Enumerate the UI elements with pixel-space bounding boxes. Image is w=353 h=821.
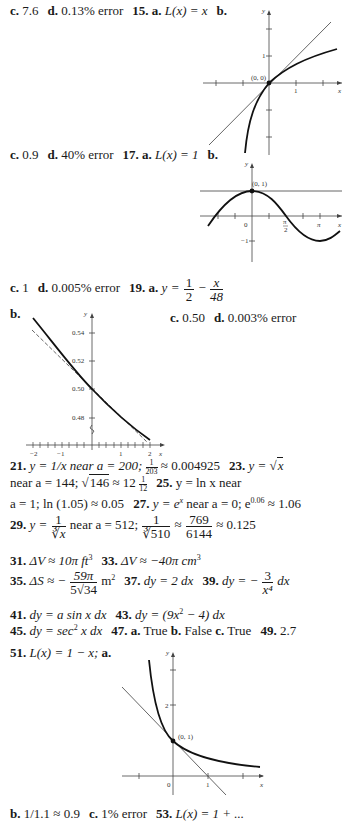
- label-a: a.: [152, 3, 162, 18]
- denominator: ∛510: [142, 527, 170, 540]
- denominator: x⁴: [262, 583, 273, 596]
- exponent: 3: [88, 553, 92, 562]
- answer-line-17: c. 0.9d. 40% error17. a. L(x) = 1b.: [10, 147, 218, 162]
- denominator: 5√34: [70, 583, 97, 596]
- answer-line-31-33: 31. ΔV ≈ 10π ft333. ΔV ≈ −40π cm3: [10, 550, 201, 568]
- answer-line-51-53-partial: b. 1/1.1 ≈ 0.9c. 1% error53. L(x) = 1 + …: [10, 806, 244, 821]
- fraction: 1∛510: [142, 513, 170, 540]
- answer-line-35-39: 35. ΔS ≈ − 59π5√34 m237. dy = 2 dx39. dy…: [10, 569, 289, 596]
- svg-text:y: y: [244, 160, 249, 168]
- svg-text:−1: −1: [241, 237, 249, 245]
- answer-value: 0.005% error: [52, 280, 121, 295]
- svg-text:(0, 1): (0, 1): [178, 733, 194, 741]
- answer-line-51: 51. L(x) = 1 − x; a.: [10, 645, 111, 660]
- numerator: 1: [52, 513, 66, 527]
- answer-value: True: [227, 623, 251, 638]
- answer-line-21-23: 21. y = 1/x near a = 200; 1203 ≈ 0.00492…: [10, 458, 283, 476]
- graph-15b: (0, 0) 1 1 x y: [200, 8, 350, 158]
- svg-text:1: 1: [262, 52, 266, 60]
- numerator: x: [210, 276, 223, 290]
- svg-text:y: y: [165, 649, 170, 657]
- svg-text:x: x: [259, 781, 264, 789]
- problem-number: 29.: [10, 517, 26, 532]
- answer-value: True: [143, 623, 167, 638]
- problem-number: 33.: [101, 553, 117, 568]
- answer-text: ≈ 1.06: [268, 496, 301, 511]
- small-fraction: 112: [139, 476, 147, 493]
- graph-17b: (0, 1) 0 π 2 π x −1 y: [195, 160, 350, 265]
- answer-value: 0.13% error: [61, 3, 123, 18]
- numerator: 3: [262, 569, 273, 583]
- exponent: 3: [197, 553, 201, 562]
- answer-text: x dx: [78, 623, 103, 638]
- answer-text: y = 1/x near a = 200;: [30, 458, 143, 473]
- approx-sign: ≈: [175, 517, 182, 532]
- answer-value: 0.50: [182, 310, 205, 325]
- answer-value: 1: [22, 280, 29, 295]
- answer-text: near a = 512;: [70, 517, 138, 532]
- fraction: 3x⁴: [262, 569, 273, 596]
- answer-text: y =: [30, 517, 48, 532]
- label-c: c.: [10, 280, 19, 295]
- svg-text:0.52: 0.52: [72, 357, 85, 365]
- denominator: 48: [210, 290, 223, 303]
- label-a: a.: [102, 645, 112, 660]
- svg-text:1: 1: [294, 87, 298, 95]
- problem-number: 39.: [202, 573, 218, 588]
- problem-number: 51.: [10, 645, 26, 660]
- fraction: 7696144: [186, 513, 212, 540]
- answer-text: 1/1.1 ≈ 0.9: [24, 806, 80, 821]
- answer-text: dy = sec: [30, 623, 74, 638]
- svg-text:x: x: [337, 87, 342, 95]
- answer-value: L(x) = 1: [155, 147, 198, 162]
- svg-text:x: x: [337, 221, 342, 229]
- svg-text:0.54: 0.54: [72, 329, 85, 337]
- denominator: 6144: [186, 527, 212, 540]
- radicand: x: [277, 457, 284, 473]
- fraction: 12: [184, 276, 195, 303]
- answer-value: 2.7: [280, 623, 296, 638]
- svg-text:π: π: [317, 221, 321, 229]
- label-d: d.: [38, 280, 48, 295]
- answer-text: y = ln x near: [176, 475, 242, 490]
- label-d: d.: [48, 147, 58, 162]
- answer-text: a = 1; ln (1.05) ≈ 0.05: [10, 496, 124, 511]
- graph-51a: (0, 1) 2 0 1 x y: [115, 648, 285, 798]
- label-c: c.: [170, 310, 179, 325]
- numerator: 59π: [70, 569, 97, 583]
- svg-text:−1: −1: [57, 450, 65, 458]
- svg-text:π: π: [283, 218, 287, 226]
- problem-number: 31.: [10, 553, 26, 568]
- answer-text: dy = −: [222, 573, 258, 588]
- label-a: a.: [131, 623, 141, 638]
- answer-text: ≈ 0.004925: [161, 458, 220, 473]
- problem-number: 23.: [229, 458, 245, 473]
- problem-number: 25.: [156, 475, 172, 490]
- denominator: 2: [184, 290, 195, 303]
- label-c: c.: [89, 806, 98, 821]
- svg-text:1: 1: [119, 450, 123, 458]
- label-b: b.: [171, 623, 181, 638]
- answer-text: L(x) = 1 + ...: [176, 806, 244, 821]
- svg-text:y: y: [261, 7, 266, 15]
- problem-number: 53.: [156, 806, 172, 821]
- answer-line-29: 29. y = 1∛x near a = 512; 1∛510 ≈ 769614…: [10, 513, 256, 540]
- answer-line-25-27: a = 1; ln (1.05) ≈ 0.0527. y = ex near a…: [10, 493, 301, 511]
- answer-text: dy = 2 dx: [144, 573, 194, 588]
- answer-text: ΔV ≈ −40π cm: [121, 553, 197, 568]
- answer-value: 7.6: [22, 3, 38, 18]
- problem-number: 49.: [260, 623, 276, 638]
- label-a: a.: [149, 280, 159, 295]
- problem-number: 27.: [133, 496, 149, 511]
- answer-text: ΔS ≈ −: [30, 573, 67, 588]
- label-c: c.: [215, 623, 224, 638]
- exponent: x: [179, 496, 183, 505]
- problem-number: 35.: [10, 573, 26, 588]
- minus-sign: −: [198, 280, 205, 295]
- numerator: 1: [184, 276, 195, 290]
- svg-text:2: 2: [284, 226, 288, 234]
- answer-text: y = e: [153, 496, 180, 511]
- answer-value: 0.003% error: [228, 310, 297, 325]
- problem-number: 17.: [123, 147, 139, 162]
- svg-text:(0, 0): (0, 0): [251, 74, 267, 82]
